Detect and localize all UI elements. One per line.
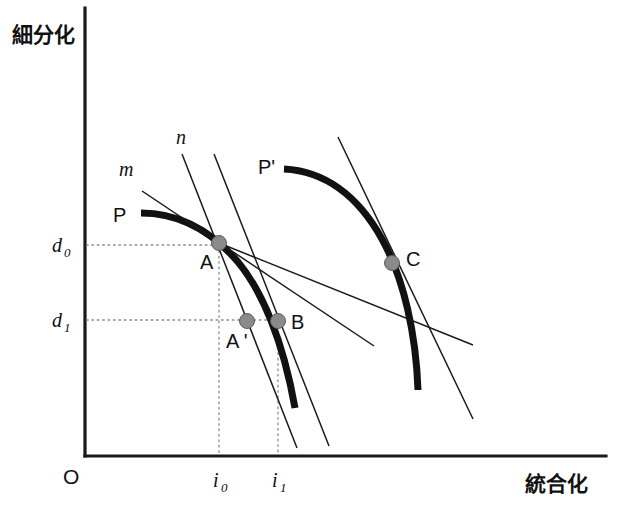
line-tangent-at-C <box>338 137 473 419</box>
point-A-prime-label: A ' <box>226 330 248 352</box>
y-tick-d0-label: d <box>52 234 63 256</box>
point-A-marker <box>212 236 227 251</box>
x-axis-title: 統合化 <box>525 472 588 496</box>
point-A-prime-marker <box>240 314 255 329</box>
x-tick-i0-subscript: 0 <box>221 480 228 495</box>
curve-P-prime-label: P' <box>258 156 275 178</box>
x-tick-i1-subscript: 1 <box>280 480 287 495</box>
line-n-label: n <box>176 126 186 148</box>
point-A-label: A <box>200 251 214 273</box>
point-B-label: B <box>291 311 304 333</box>
line-m-label: m <box>119 158 133 180</box>
curve-P-prime <box>284 169 418 390</box>
diagram-root: 細分化 統合化 O d 0 d 1 i 0 i 1 P P' m n A A '… <box>0 0 624 509</box>
y-tick-d0: d 0 <box>52 234 71 260</box>
y-tick-d0-subscript: 0 <box>64 245 71 260</box>
line-m <box>142 191 374 346</box>
curve-P-label: P <box>113 204 126 226</box>
line-k-parallel <box>214 154 329 446</box>
y-axis-title: 細分化 <box>12 23 75 47</box>
x-tick-i1-label: i <box>272 469 278 491</box>
economic-frontier-diagram: 細分化 統合化 O d 0 d 1 i 0 i 1 P P' m n A A '… <box>0 0 624 509</box>
line-n <box>182 154 297 448</box>
x-tick-i1: i 1 <box>272 469 287 495</box>
point-C-label: C <box>406 248 420 270</box>
x-tick-i0: i 0 <box>213 469 228 495</box>
point-C-marker <box>385 256 400 271</box>
y-tick-d1: d 1 <box>52 309 71 335</box>
origin-label: O <box>63 465 79 488</box>
y-tick-d1-label: d <box>52 309 63 331</box>
x-tick-i0-label: i <box>213 469 219 491</box>
point-B-marker <box>271 314 286 329</box>
y-tick-d1-subscript: 1 <box>64 320 71 335</box>
